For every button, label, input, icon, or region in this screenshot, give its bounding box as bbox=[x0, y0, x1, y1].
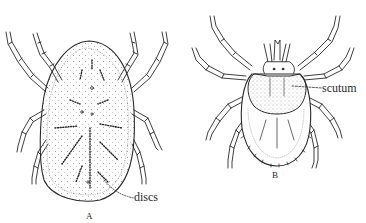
figure: discs scutum A B bbox=[0, 0, 366, 223]
scutum-label: scutum bbox=[322, 82, 357, 94]
tick-a-body bbox=[40, 41, 134, 201]
discs-label: discs bbox=[134, 191, 158, 203]
tick-a-drawing bbox=[6, 32, 168, 201]
tick-b-capitulum bbox=[263, 40, 294, 76]
tick-b-scutum bbox=[248, 74, 306, 114]
tick-illustrations bbox=[0, 0, 366, 223]
panel-b-caption: B bbox=[272, 171, 279, 180]
panel-a-caption: A bbox=[86, 212, 93, 221]
